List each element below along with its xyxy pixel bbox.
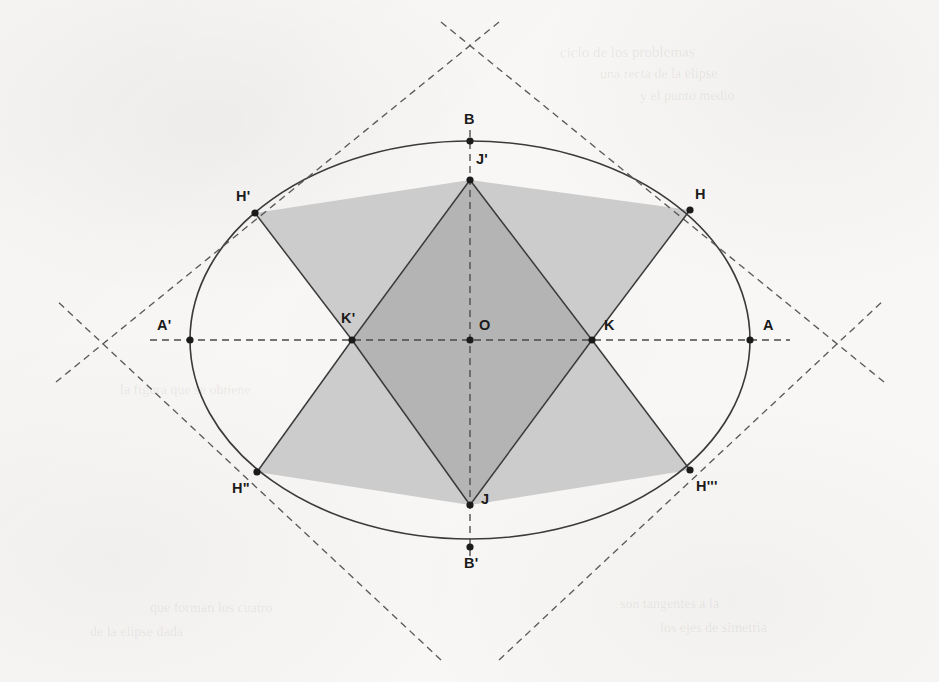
vertex-dot-K-prime xyxy=(348,336,355,343)
vertex-dot-H xyxy=(686,206,693,213)
vertex-dot-B-prime xyxy=(466,543,473,550)
point-label-H-double-prime: H" xyxy=(232,481,250,496)
point-label-J: J xyxy=(481,492,489,507)
vertex-dot-J-prime xyxy=(466,176,473,183)
vertex-dot-B xyxy=(466,137,473,144)
vertex-dot-H-triple-prime xyxy=(686,466,693,473)
vertex-dot-J xyxy=(466,501,473,508)
point-label-K: K xyxy=(604,318,615,333)
point-label-K-prime: K' xyxy=(341,311,355,326)
vertex-dot-A-prime xyxy=(186,336,193,343)
vertex-dot-A xyxy=(746,336,753,343)
point-label-B-prime: B' xyxy=(464,556,478,571)
vertex-dot-H-double-prime xyxy=(253,468,260,475)
point-label-B: B xyxy=(464,112,475,127)
vertex-dot-H-prime xyxy=(251,209,258,216)
point-label-H-triple-prime: H''' xyxy=(696,479,718,494)
point-label-O: O xyxy=(479,318,490,333)
point-label-A-prime: A' xyxy=(157,318,171,333)
figure-page: ciclo de los problemasuna recta de la el… xyxy=(0,0,939,682)
point-label-A: A xyxy=(763,318,774,333)
vertex-dot-O xyxy=(466,336,473,343)
point-label-H: H xyxy=(695,187,706,202)
point-label-J-prime: J' xyxy=(476,152,488,167)
geometry-diagram xyxy=(0,0,939,682)
vertex-dot-K xyxy=(588,336,595,343)
point-label-H-prime: H' xyxy=(236,189,250,204)
